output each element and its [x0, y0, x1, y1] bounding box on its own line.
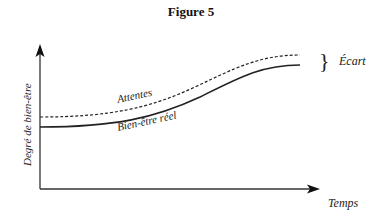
- y-axis-label: Degré de bien-être: [21, 83, 33, 167]
- series-label-attentes: Attentes: [115, 86, 153, 105]
- diagram-canvas: } Écart Attentes Bien-être réel Temps De…: [0, 0, 382, 220]
- x-axis: [40, 185, 320, 194]
- series-attentes: [40, 55, 300, 117]
- x-axis-label: Temps: [328, 196, 359, 210]
- gap-brace: }: [319, 48, 330, 73]
- gap-label: Écart: [338, 54, 366, 68]
- series-label-bien-etre-reel: Bien-être réel: [116, 109, 178, 133]
